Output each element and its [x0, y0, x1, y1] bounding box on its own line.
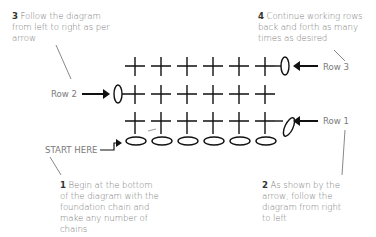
row-3-stitches	[125, 57, 281, 76]
crochet-diagram	[0, 0, 376, 237]
pointer-note-1	[50, 157, 61, 175]
start-here-arrow-icon	[100, 143, 117, 150]
pointer-note-4	[334, 50, 345, 61]
pointer-note-2	[342, 130, 345, 175]
row-3-arrow-icon	[293, 61, 318, 71]
row-1-arrow-icon	[293, 116, 318, 126]
turning-chain-row-3	[281, 57, 289, 75]
row-2-stitches	[122, 85, 275, 104]
turning-chain-row-1	[281, 116, 297, 138]
foundation-chain	[126, 137, 276, 145]
pointer-note-3	[56, 45, 71, 79]
turning-chain-row-2	[114, 85, 122, 103]
row-2-arrow-icon	[82, 89, 110, 99]
